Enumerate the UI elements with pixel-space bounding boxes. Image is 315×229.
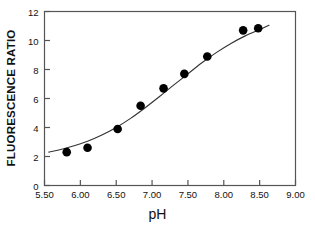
data-point xyxy=(203,52,212,61)
data-point xyxy=(136,101,145,110)
data-point-series xyxy=(62,24,262,157)
x-tick-label: 9.00 xyxy=(286,189,305,200)
x-tick-label: 8.00 xyxy=(215,189,234,200)
y-tick-label: 10 xyxy=(13,35,39,46)
x-axis-ticks xyxy=(45,180,296,186)
x-tick-label: 6.50 xyxy=(107,189,126,200)
x-tick-label: 7.50 xyxy=(179,189,198,200)
y-tick-label: 0 xyxy=(13,180,39,191)
data-point xyxy=(239,26,248,35)
figure-container: FLUORESCENCE RATIO pH 5.506.006.507.007.… xyxy=(0,0,315,229)
axes-frame xyxy=(45,12,296,186)
data-point xyxy=(113,125,122,134)
data-point xyxy=(62,148,71,157)
data-point xyxy=(254,24,263,33)
y-tick-label: 12 xyxy=(13,6,39,17)
x-tick-label: 8.50 xyxy=(250,189,269,200)
data-point xyxy=(83,144,92,153)
fit-curve xyxy=(49,25,269,152)
data-point xyxy=(159,84,168,93)
y-tick-label: 6 xyxy=(13,93,39,104)
y-tick-label: 8 xyxy=(13,64,39,75)
y-axis-ticks xyxy=(45,12,51,186)
x-tick-label: 6.00 xyxy=(71,189,90,200)
x-tick-label: 7.00 xyxy=(143,189,162,200)
x-axis-label: pH xyxy=(0,206,315,222)
data-point xyxy=(180,70,189,79)
y-tick-label: 4 xyxy=(13,122,39,133)
y-tick-label: 2 xyxy=(13,151,39,162)
